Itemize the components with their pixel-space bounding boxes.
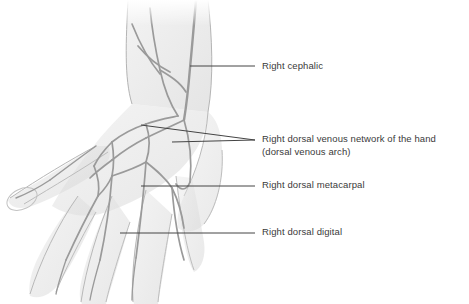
- label-right-cephalic: Right cephalic: [262, 60, 323, 73]
- label-dorsal-digital: Right dorsal digital: [262, 226, 342, 239]
- label-dorsal-venous-network: Right dorsal venous network of the hand …: [262, 133, 436, 158]
- label-dorsal-metacarpal: Right dorsal metacarpal: [262, 179, 365, 192]
- hand-illustration: [3, 0, 222, 304]
